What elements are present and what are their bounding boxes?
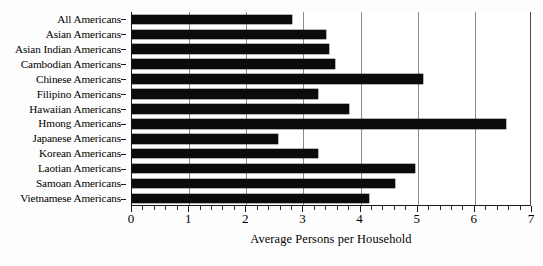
x-tick-minor [382,206,383,210]
category-label: Vietnamese Americans [20,191,121,206]
category-label: Asian Americans [46,27,121,42]
bar [132,119,506,129]
category-label: Laotian Americans [38,161,121,176]
bar-row [132,12,532,27]
bar-row [132,27,532,42]
category-label: Samoan Americans [36,176,121,191]
x-tick-minor [165,206,166,210]
category-tick [121,184,126,185]
x-tick-label: 1 [185,211,192,227]
x-tick-minor [405,206,406,210]
x-tick-minor [314,206,315,210]
x-tick-minor [280,206,281,210]
bar-chart: All AmericansAsian AmericansAsian Indian… [0,0,543,266]
bar-row [132,102,532,117]
x-tick-minor [520,206,521,210]
category-axis: All AmericansAsian AmericansAsian Indian… [0,12,126,206]
category-label: Filipino Americans [37,87,121,102]
x-tick-label: 7 [528,211,535,227]
x-tick-minor [440,206,441,210]
category-tick [121,94,126,95]
x-tick-minor [177,206,178,210]
x-tick-minor [142,206,143,210]
x-tick-minor [257,206,258,210]
bar [132,74,423,84]
category-label: Korean Americans [39,146,121,161]
bar-row [132,146,532,161]
x-tick-minor [394,206,395,210]
bar-row [132,131,532,146]
bar-row [132,116,532,131]
x-tick-minor [211,206,212,210]
x-tick-label: 6 [471,211,478,227]
x-tick-minor [508,206,509,210]
x-tick-minor [154,206,155,210]
category-label: Cambodian Americans [21,57,121,72]
category-tick [121,34,126,35]
x-tick-minor [462,206,463,210]
category-tick [121,154,126,155]
x-tick-label: 4 [356,211,363,227]
bar [132,179,395,189]
x-tick-minor [428,206,429,210]
category-tick [121,124,126,125]
x-tick-label: 0 [128,211,135,227]
x-tick-minor [234,206,235,210]
category-label: All Americans [57,12,121,27]
x-tick-minor [497,206,498,210]
category-label: Chinese Americans [36,72,121,87]
bar [132,15,292,25]
x-tick-minor [200,206,201,210]
category-label: Hmong Americans [38,116,121,131]
x-tick-minor [291,206,292,210]
x-tick-minor [348,206,349,210]
category-tick [121,169,126,170]
category-label: Japanese Americans [32,131,121,146]
category-tick [121,64,126,65]
bar [132,194,369,204]
bar-row [132,191,532,206]
x-tick-minor [337,206,338,210]
bar-row [132,42,532,57]
bar [132,104,349,114]
bar-row [132,176,532,191]
bar-series [132,12,530,205]
category-tick [121,109,126,110]
x-tick-minor [325,206,326,210]
category-tick [121,79,126,80]
bar-row [132,57,532,72]
bar [132,59,335,69]
bar [132,89,318,99]
category-label: Hawaiian Americans [29,102,121,117]
bar [132,164,415,174]
plot-area [131,12,531,206]
x-tick-minor [485,206,486,210]
bar [132,30,326,40]
x-axis-title: Average Persons per Household [131,232,531,247]
x-tick-minor [371,206,372,210]
x-tick-minor [222,206,223,210]
bar-row [132,87,532,102]
bar [132,134,278,144]
x-tick-minor [451,206,452,210]
x-tick-label: 3 [299,211,306,227]
x-tick-minor [268,206,269,210]
bar [132,149,318,159]
bar-row [132,72,532,87]
category-tick [121,199,126,200]
x-axis-tick-labels: 01234567 [131,211,531,229]
x-tick-label: 2 [242,211,249,227]
bar [132,44,329,54]
category-tick [121,19,126,20]
category-tick [121,139,126,140]
category-tick [121,49,126,50]
category-label: Asian Indian Americans [15,42,121,57]
bar-row [132,161,532,176]
x-tick-label: 5 [413,211,420,227]
